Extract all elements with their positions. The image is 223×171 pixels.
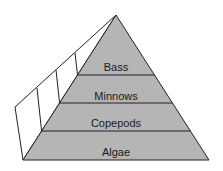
level-label-algae: Algae <box>102 146 130 158</box>
pyramid-graphic: Bass Minnows Copepods Algae <box>0 0 223 171</box>
food-pyramid-diagram: Bass Minnows Copepods Algae <box>0 0 223 171</box>
level-label-copepods: Copepods <box>91 117 142 129</box>
level-label-bass: Bass <box>104 61 129 73</box>
level-label-minnows: Minnows <box>94 90 138 102</box>
